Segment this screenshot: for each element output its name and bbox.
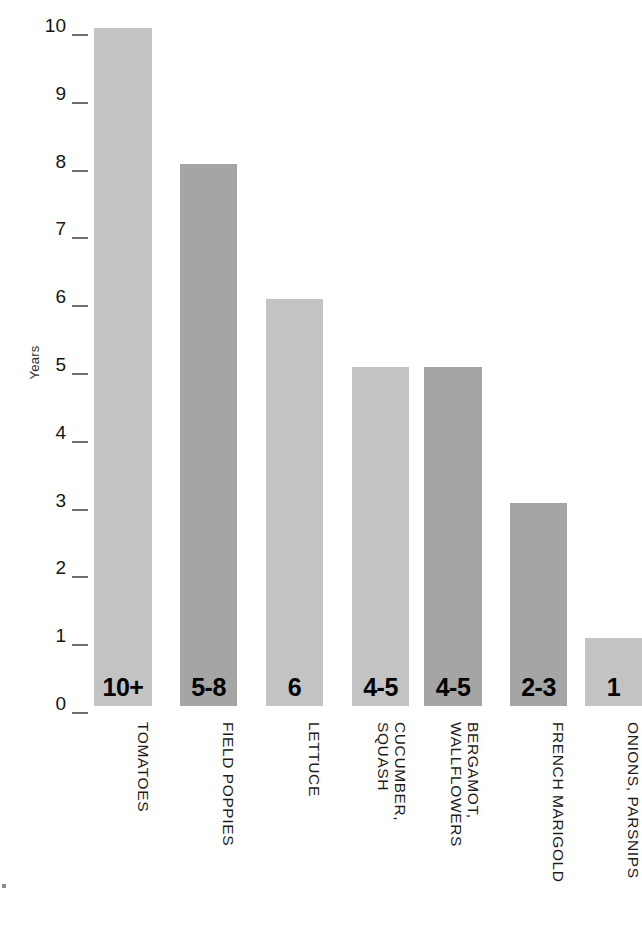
page-speck-artifact — [2, 884, 6, 888]
bar-value-label: 2-3 — [510, 674, 567, 700]
bar: 4-5 — [424, 367, 482, 706]
x-axis-category-label-line: CUCUMBER, — [392, 722, 409, 928]
bar-value-label: 10+ — [94, 674, 152, 700]
bar: 6 — [266, 299, 323, 706]
bar-value-label: 6 — [266, 674, 323, 700]
x-axis-category-label: LETTUCE — [266, 722, 323, 928]
x-axis-category-label-line: FIELD POPPIES — [220, 722, 237, 928]
bar-chart: Years 012345678910 10+5-864-54-52-31 TOM… — [0, 0, 642, 928]
bar: 2-3 — [510, 503, 567, 706]
x-axis-category-label-line: BERGAMOT, — [465, 722, 482, 928]
x-axis-category-label: ONIONS, PARSNIPS — [585, 722, 642, 928]
bar-value-label: 5-8 — [180, 674, 237, 700]
bar: 4-5 — [352, 367, 409, 706]
x-axis-category-label-line: TOMATOES — [135, 722, 152, 928]
x-axis-category-label: BERGAMOT,WALLFLOWERS — [424, 722, 482, 928]
bar-value-label: 1 — [585, 674, 642, 700]
bar: 1 — [585, 638, 642, 706]
x-axis-category-label-line: FRENCH MARIGOLD — [550, 722, 567, 928]
x-axis-category-label-line: WALLFLOWERS — [448, 722, 465, 928]
x-axis-category-label-line: ONIONS, PARSNIPS — [625, 722, 642, 928]
x-axis-category-label: CUCUMBER,SQUASH — [352, 722, 409, 928]
x-axis-category-label: TOMATOES — [94, 722, 152, 928]
bar-value-label: 4-5 — [424, 674, 482, 700]
bar: 10+ — [94, 28, 152, 706]
x-axis-category-label-line: SQUASH — [375, 722, 392, 928]
x-axis-category-label-line: LETTUCE — [306, 722, 323, 928]
x-axis-category-label: FRENCH MARIGOLD — [510, 722, 567, 928]
bar-value-label: 4-5 — [352, 674, 409, 700]
x-axis-category-label: FIELD POPPIES — [180, 722, 237, 928]
bar: 5-8 — [180, 164, 237, 706]
